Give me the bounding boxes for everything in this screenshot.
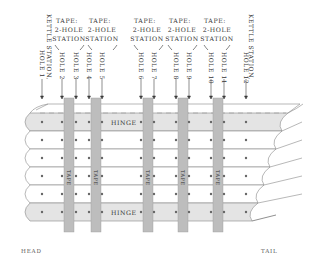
svg-text:2-HOLE: 2-HOLE xyxy=(168,26,197,33)
hole-9-label: HOLE 9 xyxy=(186,52,193,80)
svg-text:2-HOLE: 2-HOLE xyxy=(88,26,117,33)
svg-text:TAPE:: TAPE: xyxy=(204,17,226,24)
hole-8-label: HOLE 8 xyxy=(173,52,180,80)
tape-3 xyxy=(143,98,153,232)
hole-4-label: HOLE 4 xyxy=(86,52,93,80)
svg-text:TAPE:: TAPE: xyxy=(89,17,111,24)
tape-station-labels: TAPE: 2-HOLE STATION TAPE: 2-HOLE STATIO… xyxy=(52,17,233,42)
hole-5-label: HOLE 5 xyxy=(99,52,106,80)
hole-10-label: HOLE 10 xyxy=(208,52,215,84)
svg-text:TAPE: TAPE xyxy=(66,170,72,186)
hole-1-label: HOLE 1 xyxy=(39,50,46,78)
svg-text:STATION: STATION xyxy=(130,35,163,42)
svg-text:STATION: STATION xyxy=(85,35,118,42)
hole-7-label: HOLE 7 xyxy=(151,52,158,80)
hinge-bottom-label: HINGE xyxy=(111,209,137,216)
hole-arrows xyxy=(41,79,248,99)
svg-text:TAPE: TAPE xyxy=(93,170,99,186)
svg-text:TAPE:: TAPE: xyxy=(56,17,78,24)
svg-text:2-HOLE: 2-HOLE xyxy=(55,26,84,33)
svg-text:STATION: STATION xyxy=(52,35,85,42)
tail-label: TAIL xyxy=(261,248,278,254)
hole-3-label: HOLE 3 xyxy=(73,52,80,80)
kettle-station-left-label: KETTLE STATION, xyxy=(46,14,53,80)
hinge-top-label: HINGE xyxy=(111,119,137,126)
svg-text:2-HOLE: 2-HOLE xyxy=(133,26,162,33)
svg-text:TAPE:: TAPE: xyxy=(134,17,156,24)
tape-station-1: TAPE: 2-HOLE STATION xyxy=(52,17,85,42)
hole-labels: HOLE 1 HOLE 2 HOLE 3 HOLE 4 HOLE 5 HOLE … xyxy=(39,50,250,84)
tape-1 xyxy=(64,98,74,232)
tape-station-5: TAPE: 2-HOLE STATION xyxy=(200,17,233,42)
tape-2 xyxy=(91,98,101,232)
hole-11-label: HOLE 11 xyxy=(221,52,228,84)
svg-text:STATION: STATION xyxy=(200,35,233,42)
tape-station-2: TAPE: 2-HOLE STATION xyxy=(85,17,118,42)
svg-text:TAPE: TAPE xyxy=(145,170,151,186)
tape-5 xyxy=(213,98,223,232)
svg-text:TAPE: TAPE xyxy=(215,170,221,186)
hole-2-label: HOLE 2 xyxy=(59,52,66,80)
head-label: HEAD xyxy=(21,248,42,254)
svg-text:2-HOLE: 2-HOLE xyxy=(203,26,232,33)
tape-station-4: TAPE: 2-HOLE STATION xyxy=(165,17,198,42)
station-pointer-arrows xyxy=(55,45,230,50)
svg-text:STATION: STATION xyxy=(165,35,198,42)
hole-6-label: HOLE 6 xyxy=(138,52,145,80)
svg-text:TAPE:: TAPE: xyxy=(169,17,191,24)
hole-12-label: HOLE 12 xyxy=(243,52,250,84)
tape-station-3: TAPE: 2-HOLE STATION xyxy=(130,17,163,42)
svg-text:TAPE: TAPE xyxy=(180,170,186,186)
tape-4 xyxy=(178,98,188,232)
sewing-diagram: TAPE: 2-HOLE STATION TAPE: 2-HOLE STATIO… xyxy=(0,0,320,274)
